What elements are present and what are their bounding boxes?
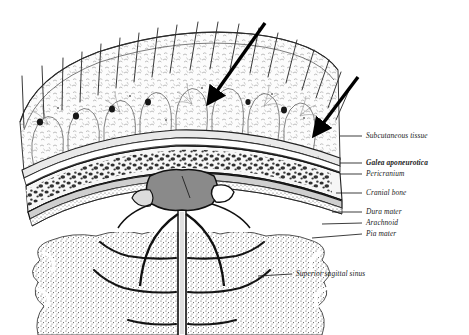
label-superior-sagittal-sinus: Superior sagittal sinus bbox=[296, 270, 365, 277]
label-subcutaneous-tissue: Subcutaneous tissue bbox=[366, 132, 428, 139]
label-arachnoid: Arachnoid bbox=[366, 219, 398, 226]
label-dura-mater: Dura mater bbox=[366, 208, 402, 215]
label-pia-mater: Pia mater bbox=[366, 230, 396, 237]
label-pericranium: Pericranium bbox=[366, 170, 404, 177]
scalp-meninges-illustration bbox=[0, 0, 469, 335]
label-galea-aponeurotica: Galea aponeurotica bbox=[366, 159, 428, 166]
anatomical-figure bbox=[0, 0, 469, 335]
label-cranial-bone: Cranial bone bbox=[366, 189, 406, 196]
